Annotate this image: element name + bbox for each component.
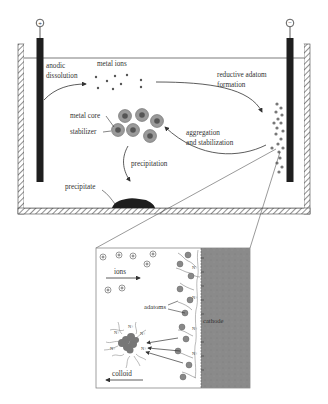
anodic-dissolution-label: anodic [46,62,65,70]
svg-text:N+: N+ [140,331,146,336]
ions-label: ions [114,268,126,276]
anode: + [36,19,44,182]
svg-text:N+: N+ [141,346,147,351]
svg-text:+: + [38,20,42,27]
reductive-adatom-label: reductive adatom [217,71,267,79]
stabilizer-label: stabilizer [70,128,97,136]
svg-text:N+: N+ [192,351,198,356]
metal-core-label: metal core [70,112,100,120]
cathode: − [286,19,294,182]
cathode-electrode [287,38,294,182]
inset-magnified-view: cathode ions [96,248,250,388]
anode-electrode [37,38,44,182]
svg-text:N+: N+ [114,330,120,335]
precipitate-label: precipitate [65,183,95,191]
svg-text:N+: N+ [192,295,198,300]
svg-text:dissolution: dissolution [46,72,78,80]
svg-text:N+: N+ [110,346,116,351]
metal-ions-label: metal ions [97,60,127,68]
adatoms-label: adatoms [144,303,166,310]
svg-text:N+: N+ [192,326,198,331]
svg-text:formation: formation [217,81,246,89]
aggregation-label: aggregation [186,129,220,137]
svg-text:N+: N+ [128,324,134,329]
precipitation-label: precipitation [131,160,168,168]
svg-text:−: − [288,19,292,26]
cathode-label: cathode [203,317,224,324]
svg-text:N+: N+ [192,265,198,270]
colloid-label: colloid [112,370,132,378]
electrochemistry-diagram: + − anodic dissolution metal ions reduct… [0,0,328,404]
